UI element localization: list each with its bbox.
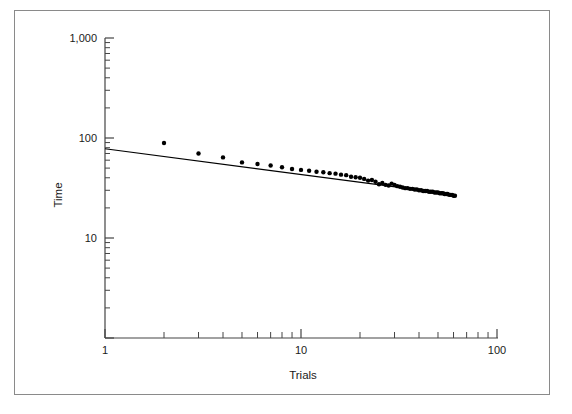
scatter-plot: 101001,000 110100 Time Trials xyxy=(0,0,572,414)
data-point xyxy=(321,170,325,174)
x-tick-label: 100 xyxy=(488,344,506,356)
x-axis-ticks xyxy=(105,329,497,338)
data-point xyxy=(314,170,318,174)
figure-container: 101001,000 110100 Time Trials xyxy=(0,0,572,414)
data-point-group xyxy=(162,141,457,198)
data-point xyxy=(299,168,303,172)
data-point xyxy=(453,193,457,197)
y-axis-ticks xyxy=(105,38,114,338)
data-point xyxy=(221,155,225,159)
data-point xyxy=(353,175,357,179)
y-axis-tick-labels: 101001,000 xyxy=(69,32,97,244)
y-tick-label: 10 xyxy=(85,232,97,244)
data-point xyxy=(290,167,294,171)
y-tick-label: 1,000 xyxy=(69,32,97,44)
data-point xyxy=(268,163,272,167)
data-point xyxy=(196,151,200,155)
data-point xyxy=(362,177,366,181)
x-axis-title: Trials xyxy=(289,369,317,381)
data-point xyxy=(162,141,166,145)
data-point xyxy=(344,173,348,177)
data-point xyxy=(280,165,284,169)
data-point xyxy=(358,176,362,180)
data-point xyxy=(339,172,343,176)
data-point xyxy=(366,178,370,182)
data-point xyxy=(349,175,353,179)
x-tick-label: 1 xyxy=(102,344,108,356)
data-point xyxy=(327,171,331,175)
data-point xyxy=(240,160,244,164)
x-axis-tick-labels: 110100 xyxy=(102,344,506,356)
x-tick-label: 10 xyxy=(295,344,307,356)
data-point xyxy=(307,169,311,173)
y-axis-title: Time xyxy=(52,182,64,207)
y-tick-label: 100 xyxy=(79,132,97,144)
data-point xyxy=(333,171,337,175)
data-point xyxy=(255,162,259,166)
